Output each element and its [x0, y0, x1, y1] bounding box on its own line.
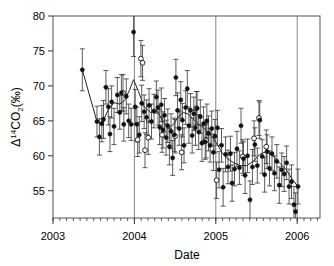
data-point-filled — [258, 118, 262, 122]
data-point-filled — [149, 119, 153, 123]
y-tick-label-80: 80 — [33, 10, 45, 22]
data-point-filled — [190, 133, 194, 137]
data-point-filled — [164, 136, 168, 140]
data-point-open — [214, 178, 219, 183]
y-tick-label-65: 65 — [33, 115, 45, 127]
y-tick-label-55: 55 — [33, 185, 45, 197]
data-point-filled — [180, 118, 184, 122]
data-point-filled — [289, 180, 293, 184]
data-point-filled — [147, 103, 151, 107]
data-point-filled — [179, 98, 183, 102]
data-point-filled — [239, 124, 243, 128]
y-tick-label-60: 60 — [33, 150, 45, 162]
data-point-filled — [226, 165, 230, 169]
data-point-filled — [195, 106, 199, 110]
data-point-filled — [267, 166, 271, 170]
data-point-filled — [193, 126, 197, 130]
data-point-filled — [182, 143, 186, 147]
data-point-filled — [296, 184, 300, 188]
data-point-filled — [159, 103, 163, 107]
delta-14-co2-time-series-chart: 2003200420052006 556065707580 Date Δ14CO… — [0, 0, 334, 266]
data-point-filled — [255, 163, 259, 167]
data-point-filled — [211, 150, 215, 154]
x-tick-label-2003: 2003 — [41, 230, 65, 242]
data-point-filled — [110, 100, 114, 104]
y-axis-title: Δ14CO2(‰) — [9, 87, 25, 146]
data-point-filled — [277, 183, 281, 187]
x-axis-ticks — [53, 218, 318, 224]
data-point-filled — [230, 181, 234, 185]
y-axis-ticks — [48, 16, 53, 191]
data-point-filled — [135, 122, 139, 126]
data-point-filled — [166, 124, 170, 128]
data-point-filled — [260, 154, 264, 158]
data-point-open — [146, 135, 151, 140]
data-point-filled — [282, 172, 286, 176]
data-point-filled — [265, 149, 269, 153]
data-point-filled — [219, 143, 223, 147]
data-point-filled — [245, 154, 249, 158]
data-point-filled — [115, 93, 119, 97]
data-point-filled — [185, 87, 189, 91]
data-point-filled — [152, 109, 156, 113]
data-point-filled — [215, 126, 219, 130]
data-point-filled — [101, 117, 105, 121]
data-point-filled — [100, 122, 104, 126]
svg-text:Δ14CO2(‰): Δ14CO2(‰) — [9, 87, 25, 146]
data-point-filled — [292, 203, 296, 207]
data-point-filled — [275, 159, 279, 163]
data-point-filled — [118, 110, 122, 114]
x-tick-label-2005: 2005 — [204, 230, 228, 242]
y-axis-tick-labels: 556065707580 — [33, 10, 45, 197]
data-point-filled — [217, 168, 221, 172]
y-axis-title-delta: Δ — [9, 139, 23, 147]
data-point-filled — [243, 173, 247, 177]
data-point-open — [135, 137, 140, 142]
data-point-filled — [171, 156, 175, 160]
data-point-filled — [248, 198, 252, 202]
data-point-filled — [133, 105, 137, 109]
data-point-open — [179, 150, 184, 155]
data-point-filled — [97, 135, 101, 139]
data-point-filled — [203, 140, 207, 144]
data-point-filled — [177, 126, 181, 130]
data-point-filled — [112, 124, 116, 128]
data-point-filled — [280, 168, 284, 172]
data-point-filled — [287, 184, 291, 188]
y-axis-title-units: (‰) — [9, 87, 23, 107]
data-point-filled — [95, 119, 99, 123]
data-point-filled — [198, 115, 202, 119]
data-point-filled — [137, 133, 141, 137]
data-point-filled — [228, 152, 232, 156]
data-point-filled — [187, 124, 191, 128]
y-axis-title-species: CO — [9, 112, 23, 130]
data-point-filled — [167, 145, 171, 149]
data-point-filled — [270, 152, 274, 156]
data-point-filled — [241, 156, 245, 160]
y-tick-label-70: 70 — [33, 80, 45, 92]
data-point-filled — [106, 105, 110, 109]
error-bars-group — [80, 8, 301, 231]
data-point-filled — [250, 165, 254, 169]
data-point-filled — [124, 94, 128, 98]
data-point-open — [264, 144, 269, 149]
data-point-filled — [154, 95, 158, 99]
data-point-filled — [175, 108, 179, 112]
data-point-filled — [104, 85, 108, 89]
data-point-filled — [119, 91, 123, 95]
data-point-filled — [161, 128, 165, 132]
data-point-filled — [285, 161, 289, 165]
x-axis-tick-labels: 2003200420052006 — [41, 230, 310, 242]
gridlines-group — [134, 16, 297, 218]
data-point-filled — [108, 132, 112, 136]
data-point-open — [140, 60, 145, 65]
data-point-filled — [131, 30, 135, 34]
data-point-filled — [272, 171, 276, 175]
data-point-filled — [197, 130, 201, 134]
x-tick-label-2006: 2006 — [285, 230, 309, 242]
data-point-filled — [223, 152, 227, 156]
data-point-filled — [206, 131, 210, 135]
data-point-filled — [208, 143, 212, 147]
data-point-filled — [232, 167, 236, 171]
data-point-filled — [192, 112, 196, 116]
